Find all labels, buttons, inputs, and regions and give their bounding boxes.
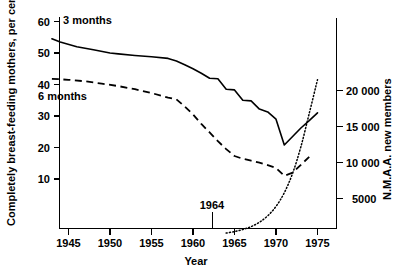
- ytick-label-10: 10: [38, 173, 50, 185]
- ytick-label-30: 30: [38, 110, 50, 122]
- ytick-label-60: 60: [38, 16, 50, 28]
- xtick-label-1960: 1960: [181, 237, 205, 249]
- bottom-axis-ticks: [69, 229, 318, 235]
- ytick-label-40: 40: [38, 79, 50, 91]
- right-axis-ticks: [337, 91, 343, 199]
- axis-frame: [60, 17, 337, 229]
- ytick-label-50: 50: [38, 47, 50, 59]
- xtick-label-1975: 1975: [305, 237, 329, 249]
- y2tick-label-5000: 5000: [352, 193, 376, 205]
- series-line-nmaa-new-members: [226, 80, 317, 233]
- xtick-label-1955: 1955: [139, 237, 163, 249]
- series-line-6-months: [52, 79, 309, 176]
- xtick-label-1970: 1970: [264, 237, 288, 249]
- bottom-axis-title: Year: [184, 255, 208, 267]
- breastfeeding-nmaa-chart: 60 50 40 30 20 10 Completely breast-feed…: [0, 0, 396, 275]
- y2tick-label-20000: 20 000: [346, 85, 380, 97]
- series-line-3-months: [52, 39, 318, 145]
- y2tick-label-15000: 15 000: [346, 121, 380, 133]
- bottom-axis-tick-labels: 1945 1950 1955 1960 1965 1970 1975: [56, 237, 329, 249]
- xtick-label-1945: 1945: [56, 237, 80, 249]
- ytick-label-20: 20: [38, 142, 50, 154]
- xtick-label-1950: 1950: [98, 237, 122, 249]
- figure-container: 60 50 40 30 20 10 Completely breast-feed…: [0, 0, 396, 275]
- xtick-label-1965: 1965: [222, 237, 246, 249]
- annotation-1964-label: 1964: [200, 199, 225, 211]
- right-axis-tick-labels: 20 000 15 000 10 000 5000: [346, 85, 380, 205]
- y2tick-label-10000: 10 000: [346, 157, 380, 169]
- series-label-6-months: 6 months: [38, 90, 87, 102]
- right-axis-title: N.M.A.A. new members: [381, 78, 393, 200]
- left-axis-title: Completely breast-feeding mothers, per c…: [5, 0, 17, 226]
- series-label-3-months: 3 months: [63, 14, 112, 26]
